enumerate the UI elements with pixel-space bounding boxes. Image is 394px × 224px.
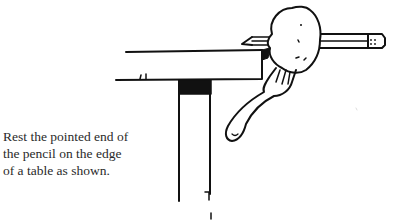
instruction-caption: Rest the pointed end of the pencil on th… (3, 128, 173, 179)
table-top (116, 50, 262, 80)
instruction-illustration (0, 0, 394, 224)
caption-line-3: of a table as shown. (3, 162, 173, 179)
caption-line-1: Rest the pointed end of (3, 128, 173, 145)
caption-line-2: the pencil on the edge (3, 145, 173, 162)
potato (262, 7, 321, 73)
table-leg (179, 80, 211, 219)
faint-mark (356, 108, 357, 110)
